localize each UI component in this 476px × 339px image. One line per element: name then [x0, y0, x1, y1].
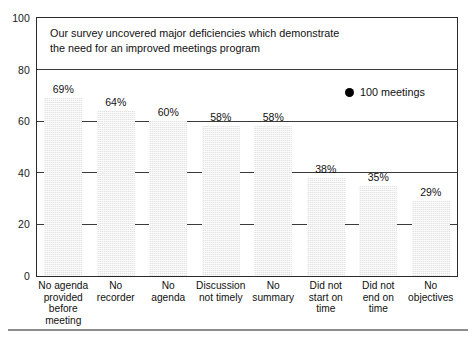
bar — [254, 126, 292, 276]
bar — [97, 111, 135, 276]
x-axis-category-label-line: time — [347, 303, 409, 315]
bar-value-label: 35% — [354, 172, 402, 183]
bar-value-label: 69% — [39, 84, 87, 95]
bar-value-label: 29% — [407, 187, 455, 198]
bar-value-label: 38% — [302, 164, 350, 175]
bar — [359, 186, 397, 276]
legend-label: 100 meetings — [360, 86, 425, 98]
y-axis-tick-label: 40 — [4, 168, 30, 178]
bar-value-label: 60% — [144, 107, 192, 118]
x-axis-category-label-line: meeting — [32, 315, 94, 327]
bar-value-label: 58% — [197, 112, 245, 123]
chart-page: 020406080100 69%64%60%58%58%38%35%29% Ou… — [0, 0, 476, 339]
y-axis-tick-label: 20 — [4, 219, 30, 229]
y-axis-tick-label: 60 — [4, 116, 30, 126]
chart-title: Our survey uncovered major deficiencies … — [50, 26, 390, 55]
chart-title-line: the need for an improved meetings progra… — [50, 41, 390, 56]
bar — [307, 178, 345, 276]
bar — [44, 98, 82, 276]
legend-marker-circle-icon — [345, 88, 354, 97]
x-axis-category-labels: No agendaprovidedbeforemeetingNorecorder… — [36, 280, 458, 336]
bar — [412, 201, 450, 276]
y-axis: 020406080100 — [0, 17, 30, 277]
gridline — [37, 69, 457, 70]
plot-area: 69%64%60%58%58%38%35%29% Our survey unco… — [36, 17, 458, 277]
x-axis-category-label-line: No — [400, 280, 462, 292]
x-axis-category-label: Noobjectives — [400, 280, 462, 303]
bar-value-label: 64% — [92, 97, 140, 108]
page-bottom-rule — [8, 329, 468, 331]
chart-title-line: Our survey uncovered major deficiencies … — [50, 26, 390, 41]
x-axis-category-label-line: objectives — [400, 292, 462, 304]
bar — [149, 121, 187, 276]
legend: 100 meetings — [345, 86, 425, 98]
x-axis-category-label-line: before — [32, 303, 94, 315]
y-axis-tick-label: 80 — [4, 65, 30, 75]
bar — [202, 126, 240, 276]
plot-surface: 69%64%60%58%58%38%35%29% Our survey unco… — [37, 18, 457, 276]
bar-value-label: 58% — [249, 112, 297, 123]
y-axis-tick-label: 0 — [4, 271, 30, 281]
y-axis-tick-label: 100 — [4, 13, 30, 23]
